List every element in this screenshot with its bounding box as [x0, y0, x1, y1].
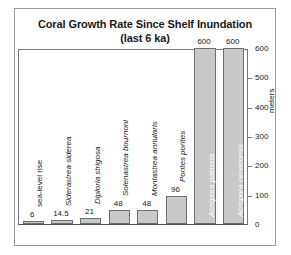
- bar-value-label: 600: [222, 38, 243, 46]
- bar: [137, 210, 158, 224]
- bar-category-label: sea-level rise: [36, 160, 44, 207]
- y-axis-tick: [247, 108, 252, 109]
- y-axis-tick: [247, 196, 252, 197]
- bar-value-label: 600: [193, 38, 214, 46]
- bar: [23, 221, 44, 224]
- y-axis-tick: [247, 166, 252, 167]
- bar-category-label: Diploria strigosa: [94, 146, 102, 203]
- y-axis-tick: [247, 78, 252, 79]
- bar-value-label: 96: [165, 186, 186, 194]
- bar-value-label: 21: [79, 208, 100, 216]
- bar-category-label: Acropora palmata: [208, 154, 216, 217]
- y-axis-tick-label: 200: [255, 162, 268, 170]
- bar-value-label: 48: [108, 200, 129, 208]
- y-axis-tick-label: 0: [255, 221, 259, 229]
- bar: [51, 220, 72, 224]
- bar-category-label: Siderastrea siderea: [65, 136, 73, 205]
- bar-value-label: 14.5: [50, 210, 71, 218]
- bar: [166, 196, 187, 224]
- y-axis-tick-label: 100: [255, 192, 268, 200]
- bar: [80, 218, 101, 224]
- y-axis-tick-label: 400: [255, 104, 268, 112]
- y-axis-tick: [247, 137, 252, 138]
- y-axis-tick-label: 300: [255, 133, 268, 141]
- bar-value-label: 6: [22, 211, 43, 219]
- y-axis-tick-label: 600: [255, 45, 268, 53]
- y-axis-tick-label: 500: [255, 74, 268, 82]
- bar-value-label: 48: [136, 200, 157, 208]
- bar-category-label: Acropora cervicornis: [237, 144, 245, 217]
- bar-category-label: Montastrea annularis: [151, 121, 159, 196]
- bar-category-label: Solenastrea bournoni: [122, 120, 130, 196]
- bar-category-label: Porites porites: [179, 131, 187, 182]
- chart-title-line1: Coral Growth Rate Since Shelf Inundation: [38, 18, 252, 30]
- chart-figure: Coral Growth Rate Since Shelf Inundation…: [14, 8, 276, 246]
- bar: [109, 210, 130, 224]
